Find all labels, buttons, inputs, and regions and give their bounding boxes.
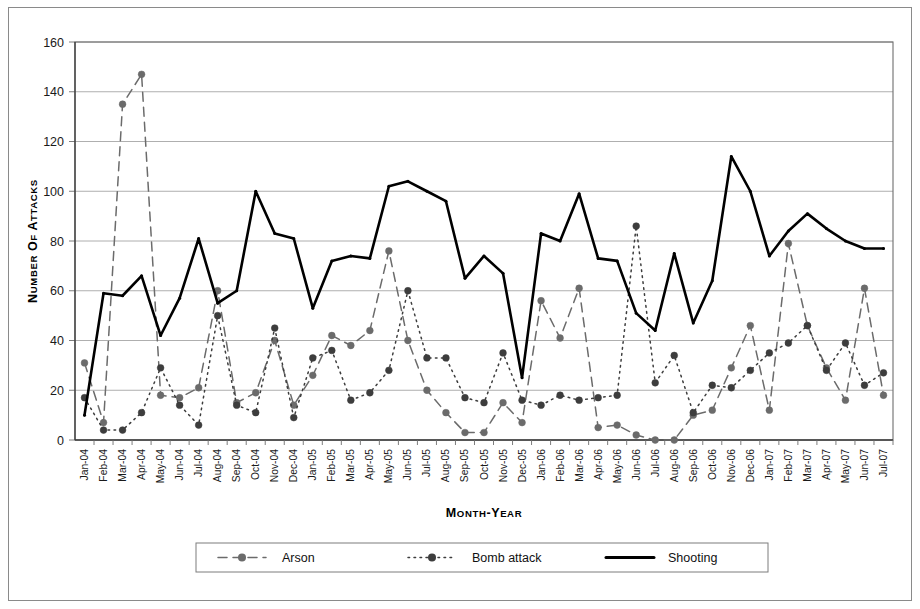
data-point-bomb-attack <box>633 223 640 230</box>
legend-label-shooting: Shooting <box>668 551 717 565</box>
data-point-arson <box>405 337 412 344</box>
data-point-shooting <box>749 190 752 193</box>
data-point-bomb-attack <box>252 409 259 416</box>
x-tick-label: May-06 <box>612 449 623 484</box>
x-tick-label-group: Feb-07 <box>783 449 794 482</box>
data-point-arson <box>309 372 316 379</box>
y-tick-label: 40 <box>50 334 64 348</box>
data-point-bomb-attack <box>138 409 145 416</box>
x-tick-label-group: Dec-04 <box>288 449 299 482</box>
data-point-bomb-attack <box>823 367 830 374</box>
y-tick-label: 60 <box>50 284 64 298</box>
x-tick-label-group: Nov-05 <box>498 449 509 482</box>
data-point-arson <box>347 342 354 349</box>
data-point-arson <box>880 392 887 399</box>
x-tick-label-group: Aug-04 <box>212 449 223 482</box>
x-tick-label-group: Jul-06 <box>650 449 661 477</box>
data-point-shooting <box>121 294 124 297</box>
data-point-arson <box>138 71 145 78</box>
data-point-bomb-attack <box>443 355 450 362</box>
data-point-arson <box>766 407 773 414</box>
x-tick-label: Sep-04 <box>231 449 242 482</box>
x-tick-label: Oct-04 <box>250 449 261 480</box>
x-tick-label: Feb-06 <box>555 449 566 482</box>
data-point-bomb-attack <box>481 399 488 406</box>
x-tick-label: Jul-07 <box>878 449 889 477</box>
x-tick-label: Jan-05 <box>307 449 318 481</box>
data-point-shooting <box>597 257 600 260</box>
data-point-bomb-attack <box>595 394 602 401</box>
x-tick-label: Jan-04 <box>79 449 90 481</box>
y-tick-label: 100 <box>43 185 64 199</box>
data-point-bomb-attack <box>709 382 716 389</box>
data-point-bomb-attack <box>385 367 392 374</box>
data-point-shooting <box>825 227 828 230</box>
data-point-shooting <box>216 302 219 305</box>
data-point-arson <box>176 394 183 401</box>
data-point-shooting <box>521 376 524 379</box>
data-point-bomb-attack <box>747 367 754 374</box>
x-tick-label-group: Apr-07 <box>821 449 832 480</box>
data-point-arson <box>538 297 545 304</box>
x-tick-label-group: Nov-06 <box>726 449 737 482</box>
data-point-bomb-attack <box>690 409 697 416</box>
x-tick-label: Apr-07 <box>821 449 832 480</box>
y-tick-label: 0 <box>57 434 64 448</box>
data-point-arson <box>633 432 640 439</box>
data-point-arson <box>385 248 392 255</box>
data-point-shooting <box>349 254 352 257</box>
chart-figure: 020406080100120140160Jan-04Feb-04Mar-04A… <box>0 0 920 609</box>
data-point-arson <box>424 387 431 394</box>
x-tick-label: Nov-04 <box>269 449 280 482</box>
x-tick-label: Apr-06 <box>593 449 604 480</box>
data-point-bomb-attack <box>766 350 773 357</box>
x-tick-label-group: May-06 <box>612 449 623 484</box>
data-point-arson <box>366 327 373 334</box>
data-point-bomb-attack <box>842 340 849 347</box>
data-point-arson <box>614 422 621 429</box>
data-point-shooting <box>882 247 885 250</box>
data-point-shooting <box>483 254 486 257</box>
x-tick-label: Oct-05 <box>479 449 490 480</box>
x-tick-label: May-07 <box>840 449 851 484</box>
y-axis-title-text: NUMBER OF ATTACKS <box>26 179 40 303</box>
data-point-bomb-attack <box>500 350 507 357</box>
x-tick-label-group: Feb-05 <box>326 449 337 482</box>
data-point-shooting <box>311 307 314 310</box>
data-point-bomb-attack <box>157 364 164 371</box>
x-tick-label: Feb-04 <box>98 449 109 482</box>
data-point-arson <box>328 332 335 339</box>
x-tick-label-group: Apr-04 <box>136 449 147 480</box>
y-tick-label: 20 <box>50 384 64 398</box>
data-point-shooting <box>635 312 638 315</box>
x-tick-label: Feb-07 <box>783 449 794 482</box>
data-point-bomb-attack <box>176 402 183 409</box>
data-point-bomb-attack <box>785 340 792 347</box>
data-point-shooting <box>159 334 162 337</box>
data-point-bomb-attack <box>271 325 278 332</box>
data-point-arson <box>519 419 526 426</box>
data-point-arson <box>443 409 450 416</box>
data-point-shooting <box>102 292 105 295</box>
x-tick-label: Jun-06 <box>631 449 642 481</box>
data-point-bomb-attack <box>366 389 373 396</box>
x-tick-label-group: Jan-07 <box>764 449 775 481</box>
data-point-arson <box>481 429 488 436</box>
data-point-shooting <box>787 230 790 233</box>
data-point-shooting <box>254 190 257 193</box>
data-point-shooting <box>863 247 866 250</box>
data-point-arson <box>728 364 735 371</box>
data-point-arson <box>500 399 507 406</box>
data-point-shooting <box>730 155 733 158</box>
data-point-shooting <box>616 259 619 262</box>
data-point-shooting <box>387 185 390 188</box>
data-point-shooting <box>578 192 581 195</box>
x-tick-label-group: Oct-04 <box>250 449 261 480</box>
x-tick-label: Aug-05 <box>440 449 451 482</box>
x-tick-label-group: Aug-05 <box>440 449 451 482</box>
data-point-bomb-attack <box>462 394 469 401</box>
data-point-bomb-attack <box>119 427 126 434</box>
x-tick-label: Mar-05 <box>345 449 356 482</box>
data-point-arson <box>671 437 678 444</box>
x-tick-label-group: May-05 <box>383 449 394 484</box>
